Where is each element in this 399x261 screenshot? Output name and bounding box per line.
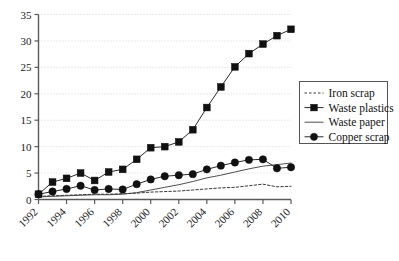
legend-label: Copper scrap	[329, 131, 390, 144]
data-point-marker	[231, 159, 238, 166]
data-point-marker	[161, 173, 168, 180]
data-point-marker	[273, 165, 280, 172]
y-tick-label: 0	[26, 194, 32, 206]
data-point-marker	[161, 143, 168, 150]
data-point-marker	[63, 175, 70, 182]
data-point-marker	[35, 191, 42, 198]
data-point-marker	[175, 171, 182, 178]
data-point-marker	[147, 144, 154, 151]
data-point-marker	[77, 170, 84, 177]
y-tick-label: 20	[21, 88, 33, 100]
line-chart: 05101520253035 1992199419961998200020022…	[0, 0, 399, 261]
chart-container: 05101520253035 1992199419961998200020022…	[0, 0, 399, 261]
data-point-marker	[77, 182, 84, 189]
data-point-marker	[245, 156, 252, 163]
data-point-marker	[91, 177, 98, 184]
data-point-marker	[288, 26, 295, 33]
data-point-marker	[133, 156, 140, 163]
chart-legend: Iron scrapWaste plasticsWaste paperCoppe…	[300, 82, 395, 144]
data-point-marker	[119, 166, 126, 173]
data-point-marker	[147, 176, 154, 183]
data-point-marker	[189, 126, 196, 133]
data-point-marker	[63, 185, 70, 192]
data-point-marker	[189, 170, 196, 177]
data-point-marker	[259, 156, 266, 163]
data-point-marker	[217, 162, 224, 169]
y-tick-label: 35	[21, 9, 33, 21]
data-point-marker	[133, 180, 140, 187]
legend-label: Waste plastics	[329, 102, 395, 115]
data-point-marker	[231, 63, 238, 70]
legend-label: Waste paper	[329, 116, 385, 129]
data-point-marker	[203, 104, 210, 111]
y-tick-label: 10	[21, 141, 33, 153]
legend-label: Iron scrap	[329, 87, 376, 100]
legend-marker-swatch	[310, 133, 317, 140]
data-point-marker	[49, 188, 56, 195]
data-point-marker	[260, 41, 267, 48]
data-point-marker	[105, 185, 112, 192]
data-point-marker	[175, 138, 182, 145]
data-point-marker	[246, 50, 253, 57]
data-point-marker	[105, 169, 112, 176]
data-point-marker	[49, 179, 56, 186]
y-tick-label: 25	[21, 61, 33, 73]
legend-marker-swatch	[311, 104, 318, 111]
y-tick-label: 30	[21, 35, 33, 47]
data-point-marker	[119, 186, 126, 193]
data-point-marker	[203, 166, 210, 173]
data-point-marker	[274, 32, 281, 39]
data-point-marker	[91, 186, 98, 193]
data-point-marker	[287, 164, 294, 171]
y-tick-label: 5	[26, 167, 32, 179]
data-point-marker	[217, 84, 224, 91]
y-tick-label: 15	[21, 114, 33, 126]
